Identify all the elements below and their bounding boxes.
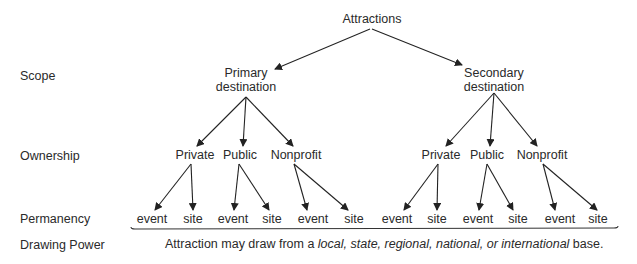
permanency-node: site bbox=[508, 212, 527, 226]
ownership-node: Public bbox=[223, 148, 257, 162]
row-label-scope: Scope bbox=[20, 69, 55, 83]
row-label-permanency: Permanency bbox=[20, 212, 90, 226]
caption-italic-scopes: local, state, regional, national, or int… bbox=[318, 237, 570, 251]
arrow-root-primary bbox=[275, 29, 370, 69]
permanency-node: site bbox=[588, 212, 607, 226]
permanency-bracket bbox=[131, 226, 618, 229]
ownership-node: Nonprofit bbox=[517, 148, 568, 162]
row-label-ownership: Ownership bbox=[20, 149, 80, 163]
ownership-node: Private bbox=[422, 148, 461, 162]
ownership-node: Public bbox=[470, 148, 504, 162]
permanency-node: event bbox=[298, 212, 329, 226]
scope-node-secondary: Secondary destination bbox=[464, 66, 524, 94]
permanency-node: site bbox=[183, 212, 202, 226]
ownership-node: Private bbox=[176, 148, 215, 162]
permanency-node: event bbox=[545, 212, 576, 226]
permanency-node: site bbox=[427, 212, 446, 226]
scope-node-primary: Primary destination bbox=[216, 66, 276, 94]
scope-node-line1: Secondary bbox=[464, 66, 524, 80]
permanency-node: event bbox=[382, 212, 413, 226]
permanency-node: site bbox=[344, 212, 363, 226]
caption-suffix: base. bbox=[569, 237, 603, 251]
permanency-node: event bbox=[137, 212, 168, 226]
arrow-root-secondary bbox=[372, 29, 462, 65]
drawing-power-caption: Attraction may draw from a local, state,… bbox=[165, 237, 603, 251]
permanency-node: event bbox=[218, 212, 249, 226]
ownership-node: Nonprofit bbox=[271, 148, 322, 162]
permanency-node: site bbox=[262, 212, 281, 226]
caption-prefix: Attraction may draw from a bbox=[165, 237, 318, 251]
scope-node-line1: Primary bbox=[216, 66, 276, 80]
scope-node-line2: destination bbox=[464, 80, 524, 94]
root-node: Attractions bbox=[342, 12, 401, 26]
row-label-drawing-power: Drawing Power bbox=[20, 238, 105, 252]
scope-node-line2: destination bbox=[216, 80, 276, 94]
permanency-node: event bbox=[463, 212, 494, 226]
